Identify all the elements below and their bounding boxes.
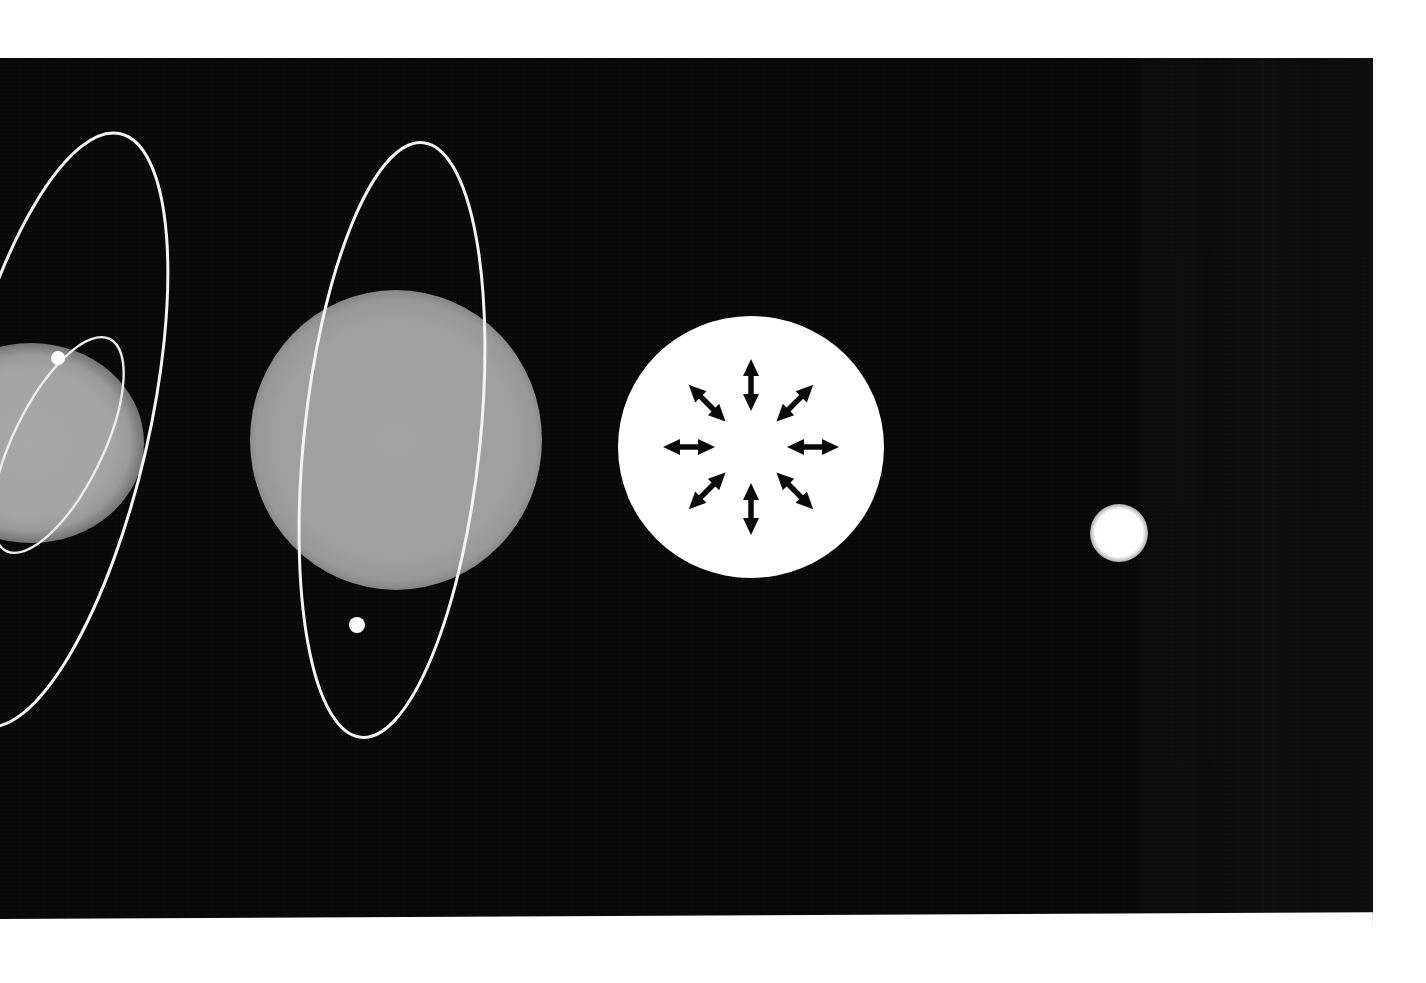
gray-giant-sphere	[250, 290, 542, 590]
page-margin-bottom	[0, 927, 1426, 983]
white-radiating-star-sphere	[618, 316, 884, 578]
page-margin-top	[0, 0, 1426, 58]
figure-root	[0, 0, 1426, 983]
photographic-plate	[0, 58, 1373, 927]
orbit-around-gray-giant-marker-dot	[349, 617, 365, 633]
page-margin-right	[1373, 0, 1426, 983]
plate-bottom-edge	[0, 912, 1373, 927]
gray-giant-partial-sphere	[0, 343, 144, 543]
white-dwarf-sphere	[1090, 504, 1148, 562]
